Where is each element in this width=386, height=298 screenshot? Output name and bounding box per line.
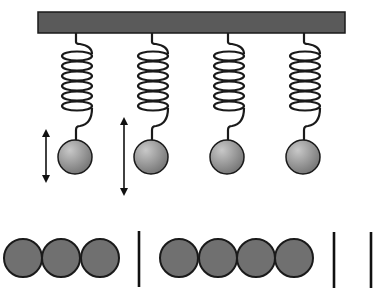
- particle-circle: [199, 239, 237, 277]
- mass-ball: [210, 140, 244, 174]
- particle-circle: [237, 239, 275, 277]
- oscillator-4: [286, 33, 320, 174]
- spring-coil: [214, 92, 244, 101]
- spring-coil: [62, 92, 92, 101]
- spring-coil: [62, 62, 92, 71]
- diagram-canvas: [0, 0, 386, 298]
- spring-lower-hook: [304, 108, 320, 140]
- spring-coil: [214, 62, 244, 71]
- spring-coil: [214, 102, 244, 111]
- spring-coil: [62, 72, 92, 81]
- spring-coil: [290, 102, 320, 111]
- spring-coil: [62, 82, 92, 91]
- bottom-row-group: [4, 231, 371, 288]
- particle-circle: [160, 239, 198, 277]
- spring-coil: [62, 102, 92, 111]
- spring-coil: [138, 102, 168, 111]
- spring-coil: [290, 52, 320, 61]
- oscillator-1: [46, 33, 92, 179]
- oscillator-2: [124, 33, 168, 192]
- mass-ball: [134, 140, 168, 174]
- spring-lower-hook: [152, 108, 168, 140]
- spring-coil: [138, 62, 168, 71]
- spring-coil: [290, 62, 320, 71]
- spring-coil: [290, 92, 320, 101]
- oscillator-3: [210, 33, 244, 174]
- particle-circle: [4, 239, 42, 277]
- particle-circle: [275, 239, 313, 277]
- spring-coil: [138, 72, 168, 81]
- spring-coil: [290, 72, 320, 81]
- spring-lower-hook: [76, 108, 92, 140]
- spring-coil: [62, 52, 92, 61]
- spring-coil: [138, 82, 168, 91]
- particle-circle: [81, 239, 119, 277]
- mass-ball: [58, 140, 92, 174]
- spring-coil: [214, 72, 244, 81]
- spring-lower-hook: [228, 108, 244, 140]
- spring-coil: [138, 52, 168, 61]
- spring-coil: [290, 82, 320, 91]
- mass-ball: [286, 140, 320, 174]
- oscillators-group: [46, 33, 320, 192]
- spring-coil: [214, 52, 244, 61]
- spring-coil: [214, 82, 244, 91]
- mass-spring-diagram: [0, 0, 386, 298]
- support-bar: [38, 12, 345, 33]
- spring-coil: [138, 92, 168, 101]
- particle-circle: [42, 239, 80, 277]
